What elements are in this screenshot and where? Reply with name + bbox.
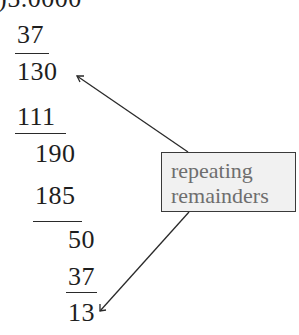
- callout-line-1: repeating: [171, 160, 253, 182]
- callout-line-2: remainders: [171, 185, 269, 207]
- arrow-to-13: [100, 212, 189, 311]
- callout-box: repeating remainders: [161, 152, 296, 212]
- arrow-to-130: [77, 76, 188, 152]
